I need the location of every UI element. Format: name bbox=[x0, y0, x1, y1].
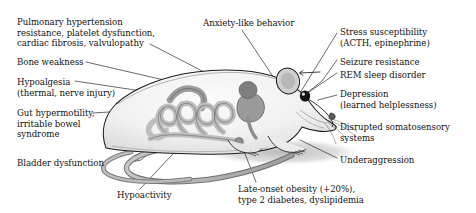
label-depression: Depression (learned helplessness) bbox=[340, 89, 437, 110]
label-pulmonary-hypertension: Pulmonary hypertension resistance, plate… bbox=[17, 17, 155, 49]
mouse-eye bbox=[300, 90, 310, 101]
label-hypoalgesia: Hypoalgesia (thermal, nerve injury) bbox=[17, 77, 115, 98]
mouse-phenotype-figure: Pulmonary hypertension resistance, plate… bbox=[0, 0, 476, 213]
label-bone-weakness: Bone weakness bbox=[17, 57, 83, 68]
label-late-onset-obesity: Late-onset obesity (+20%), type 2 diabet… bbox=[238, 184, 364, 205]
organ-kidney bbox=[239, 82, 257, 99]
label-bladder-dysfunction: Bladder dysfunction bbox=[17, 158, 104, 169]
label-underaggression: Underaggression bbox=[340, 155, 414, 166]
label-rem-sleep-disorder: REM sleep disorder bbox=[340, 70, 426, 81]
label-gut-hypermotility: Gut hypermotility, irritable bowel syndr… bbox=[17, 108, 95, 140]
label-disrupted-somatosensory-systems: Disrupted somatosensory systems bbox=[340, 122, 450, 143]
label-anxiety-like-behavior: Anxiety-like behavior bbox=[203, 18, 294, 29]
label-stress-susceptibility: Stress susceptibility (ACTH, epinephrine… bbox=[340, 27, 430, 48]
label-hypoactivity: Hypoactivity bbox=[117, 190, 171, 201]
label-seizure-resistance: Seizure resistance bbox=[340, 57, 420, 68]
